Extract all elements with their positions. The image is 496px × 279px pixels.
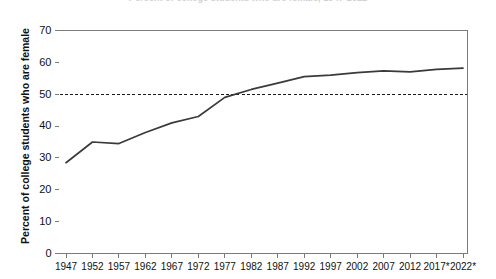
- x-tick-label-1977: 1977: [214, 261, 237, 272]
- x-tick-label-1957: 1957: [108, 261, 131, 272]
- line-chart-plot: 010203040506070 194719521957196219671972…: [0, 0, 496, 279]
- x-axis-ticks: 1947195219571962196719721977198219871992…: [55, 254, 476, 272]
- y-tick-label-70: 70: [39, 24, 51, 36]
- x-tick-label-1952: 1952: [81, 261, 104, 272]
- x-tick-label-1972: 1972: [187, 261, 210, 272]
- y-tick-label-0: 0: [45, 247, 51, 259]
- x-tick-label-1962: 1962: [134, 261, 157, 272]
- x-tick-label-1982: 1982: [240, 261, 263, 272]
- y-tick-label-30: 30: [39, 151, 51, 163]
- plot-frame: [59, 31, 468, 254]
- x-tick-label-1947: 1947: [55, 261, 78, 272]
- x-tick-label-1992: 1992: [293, 261, 316, 272]
- y-tick-label-50: 50: [39, 88, 51, 100]
- x-tick-label-2002: 2002: [346, 261, 369, 272]
- y-tick-label-40: 40: [39, 119, 51, 131]
- y-tick-label-10: 10: [39, 215, 51, 227]
- x-tick-label-2017-est: 2017*: [423, 261, 449, 272]
- y-tick-label-20: 20: [39, 183, 51, 195]
- x-tick-label-1967: 1967: [161, 261, 184, 272]
- x-tick-label-2012: 2012: [399, 261, 422, 272]
- y-tick-label-60: 60: [39, 56, 51, 68]
- series-line-percent-female: [66, 68, 463, 163]
- x-tick-label-2007: 2007: [372, 261, 395, 272]
- y-axis-ticks: 010203040506070: [39, 24, 58, 259]
- x-tick-label-1997: 1997: [320, 261, 343, 272]
- x-tick-label-2022-est: 2022*: [450, 261, 476, 272]
- x-tick-label-1987: 1987: [267, 261, 290, 272]
- chart-figure: Percent of college students who are fema…: [0, 0, 496, 279]
